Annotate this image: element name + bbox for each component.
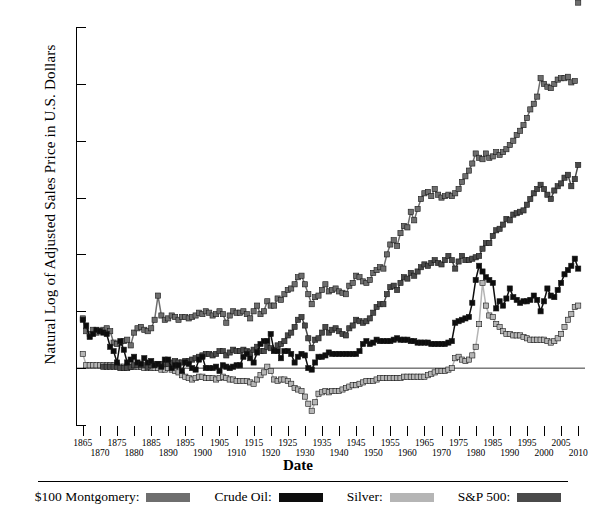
data-point (487, 241, 492, 246)
data-point (480, 246, 485, 251)
data-point (309, 408, 314, 413)
x-tick-label: 1925 (278, 438, 297, 448)
data-point (429, 194, 434, 199)
data-point (278, 356, 283, 361)
data-point (477, 263, 482, 268)
data-point (179, 368, 184, 373)
data-point (251, 360, 256, 365)
data-point (111, 349, 116, 354)
data-point (480, 280, 485, 285)
data-point (518, 128, 523, 133)
data-point (541, 299, 546, 304)
data-point (521, 123, 526, 128)
data-point (302, 282, 307, 287)
data-point (121, 347, 126, 352)
legend-item: Silver: (347, 489, 434, 505)
x-axis-title: Date (0, 457, 596, 474)
y-tick (77, 254, 86, 255)
x-tick-label: 1955 (381, 438, 400, 448)
data-point (555, 287, 560, 292)
x-tick (322, 426, 323, 436)
data-point (306, 336, 311, 341)
data-point (459, 179, 464, 184)
x-tick (561, 426, 562, 436)
data-point (559, 181, 564, 186)
data-point (548, 196, 553, 201)
data-point (395, 287, 400, 292)
data-point (302, 353, 307, 358)
y-axis-line (76, 27, 77, 426)
data-point (569, 312, 574, 317)
x-tick-label: 1975 (449, 438, 468, 448)
data-point (193, 367, 198, 372)
data-point (565, 74, 570, 79)
x-tick-label: 1885 (142, 438, 161, 448)
data-point (200, 354, 205, 359)
data-point (449, 366, 454, 371)
data-point (84, 323, 89, 328)
data-point (449, 339, 454, 344)
data-point (176, 363, 181, 368)
x-tick-label: 1965 (415, 438, 434, 448)
data-point (313, 360, 318, 365)
x-tick (578, 426, 579, 436)
x-tick (202, 426, 203, 436)
data-point (466, 168, 471, 173)
data-point (470, 161, 475, 166)
data-point (477, 253, 482, 258)
legend-swatch (390, 493, 434, 502)
data-point (576, 303, 581, 308)
x-tick-label: 1985 (483, 438, 502, 448)
x-tick-label: 2005 (552, 438, 571, 448)
x-tick (373, 426, 374, 436)
data-point (466, 314, 471, 319)
x-tick-label: 1905 (210, 438, 229, 448)
data-point (572, 256, 577, 261)
chart-legend: $100 Montgomery:Crude Oil:Silver:S&P 500… (0, 489, 596, 505)
data-point (398, 280, 403, 285)
data-point (559, 331, 564, 336)
data-point (504, 296, 509, 301)
data-point (576, 266, 581, 271)
x-tick (527, 426, 528, 436)
data-point (343, 292, 348, 297)
data-point (470, 353, 475, 358)
data-point (490, 233, 495, 238)
x-tick (237, 426, 238, 436)
data-point (299, 273, 304, 278)
data-point (412, 218, 417, 223)
y-tick (77, 311, 86, 312)
x-tick (117, 426, 118, 436)
legend-swatch (146, 493, 190, 502)
x-tick-label: 1895 (176, 438, 195, 448)
data-point (535, 94, 540, 99)
y-tick (77, 84, 86, 85)
data-point (265, 339, 270, 344)
legend-item: Crude Oil: (214, 489, 322, 505)
x-tick (356, 426, 357, 436)
data-point (80, 317, 85, 322)
data-point (138, 361, 143, 366)
data-point (132, 354, 137, 359)
data-point (350, 323, 355, 328)
x-tick (219, 426, 220, 436)
x-tick (544, 426, 545, 436)
data-point (302, 323, 307, 328)
data-point (149, 326, 154, 331)
data-point (319, 287, 324, 292)
x-tick-label: 1995 (517, 438, 536, 448)
data-point (299, 314, 304, 319)
x-tick (288, 426, 289, 436)
x-tick (185, 426, 186, 436)
data-point (313, 400, 318, 405)
data-point (125, 337, 130, 342)
data-point (323, 282, 328, 287)
data-point (418, 196, 423, 201)
data-point (220, 312, 225, 317)
data-point (316, 293, 321, 298)
data-point (572, 177, 577, 182)
x-tick (459, 426, 460, 436)
x-tick (407, 426, 408, 436)
data-point (483, 303, 488, 308)
y-tick (77, 425, 86, 426)
